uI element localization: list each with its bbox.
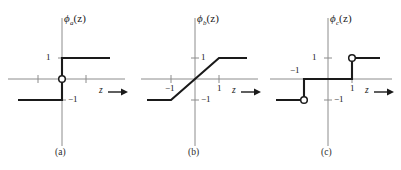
plot-panel-a: ϕa(z) 1 −1 z (a) bbox=[0, 0, 134, 170]
nonlinearity-figure: ϕa(z) 1 −1 z (a) ϕb(z) 1 −1 −1 1 z (b) bbox=[0, 0, 401, 170]
z-axis-label-c: z bbox=[365, 86, 369, 96]
open-circle-minus-one-c bbox=[301, 97, 308, 104]
z-axis-label-b: z bbox=[232, 86, 236, 96]
y-tick-label-minus-one-c: −1 bbox=[334, 95, 344, 104]
y-tick-label-plus-one-a: 1 bbox=[46, 53, 51, 62]
function-label-a: ϕa(z) bbox=[64, 13, 86, 27]
phi-arg-c: (z) bbox=[339, 12, 352, 24]
x-tick-label-minus-one-c: −1 bbox=[290, 66, 300, 75]
x-tick-label-plus-one-c: 1 bbox=[350, 84, 355, 93]
z-arrow-head-a bbox=[121, 89, 128, 96]
open-circle-plus-one-c bbox=[349, 55, 356, 62]
z-axis-label-a: z bbox=[99, 86, 103, 96]
caption-c: (c) bbox=[321, 148, 332, 158]
function-label-c: ϕc(z) bbox=[330, 13, 352, 27]
caption-b: (b) bbox=[188, 148, 199, 158]
phi-arg-a: (z) bbox=[73, 12, 86, 24]
z-arrow-head-c bbox=[387, 89, 394, 96]
x-tick-label-plus-one-b: 1 bbox=[217, 84, 222, 93]
function-label-b: ϕb(z) bbox=[197, 13, 219, 27]
y-tick-label-plus-one-c: 1 bbox=[312, 53, 317, 62]
z-arrow-head-b bbox=[254, 89, 261, 96]
y-tick-label-minus-one-a: −1 bbox=[68, 95, 78, 104]
phi-arg-b: (z) bbox=[206, 12, 219, 24]
plot-panel-b: ϕb(z) 1 −1 −1 1 z (b) bbox=[133, 0, 267, 170]
caption-a: (a) bbox=[55, 148, 66, 158]
x-tick-label-minus-one-b: −1 bbox=[165, 84, 175, 93]
y-tick-label-minus-one-b: −1 bbox=[201, 95, 211, 104]
y-tick-label-plus-one-b: 1 bbox=[201, 53, 206, 62]
open-circle-origin-a bbox=[59, 76, 66, 83]
plot-panel-c: ϕc(z) 1 −1 −1 1 z (c) bbox=[266, 0, 400, 170]
